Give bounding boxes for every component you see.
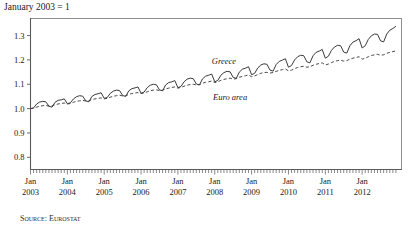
x-axis-month-label: Jan — [246, 176, 258, 186]
y-axis-tick-label: 1.3 — [14, 31, 25, 41]
x-axis-year-label: 2005 — [96, 187, 113, 197]
x-axis-year-label: 2004 — [59, 187, 77, 197]
y-axis-ticks: 1.31.21.11.00.90.8 — [14, 31, 31, 163]
y-axis-tick-label: 0.8 — [14, 152, 25, 162]
x-axis-month-label: Jan — [172, 176, 184, 186]
series-annotations: GreeceEuro area — [212, 56, 247, 103]
x-axis-month-label: Jan — [209, 176, 221, 186]
x-axis-month-label: Jan — [356, 176, 368, 186]
x-axis-year-label: 2003 — [22, 187, 39, 197]
x-axis-tick-labels: Jan2003Jan2004Jan2005Jan2006Jan2007Jan20… — [22, 176, 371, 197]
y-axis-tick-label: 1.1 — [14, 79, 25, 89]
x-axis-year-label: 2010 — [280, 187, 297, 197]
x-axis-month-label: Jan — [62, 176, 74, 186]
x-axis-year-label: 2012 — [354, 187, 371, 197]
series-annotation-greece: Greece — [212, 56, 236, 66]
x-axis-month-label: Jan — [99, 176, 111, 186]
source-note: Source: Eurostat — [20, 214, 80, 224]
x-axis-year-label: 2011 — [317, 187, 334, 197]
y-axis-tick-label: 0.9 — [14, 128, 25, 138]
series-annotation-euro-area: Euro area — [212, 92, 247, 102]
x-axis-year-label: 2008 — [206, 187, 223, 197]
y-axis-tick-label: 1.2 — [14, 55, 25, 65]
x-axis-minor-ticks — [31, 170, 396, 175]
x-axis-month-label: Jan — [25, 176, 37, 186]
x-axis-month-label: Jan — [320, 176, 332, 186]
x-axis-year-label: 2007 — [169, 187, 186, 197]
y-axis-tick-label: 1.0 — [14, 104, 25, 114]
x-axis-month-label: Jan — [283, 176, 295, 186]
line-chart-plot: 1.31.21.11.00.90.8 Jan2003Jan2004Jan2005… — [0, 0, 408, 225]
x-axis-year-label: 2006 — [133, 187, 150, 197]
chart-figure: January 2003 = 1 1.31.21.11.00.90.8 Jan2… — [0, 0, 408, 225]
x-axis-month-label: Jan — [135, 176, 147, 186]
x-axis-year-label: 2009 — [243, 187, 260, 197]
